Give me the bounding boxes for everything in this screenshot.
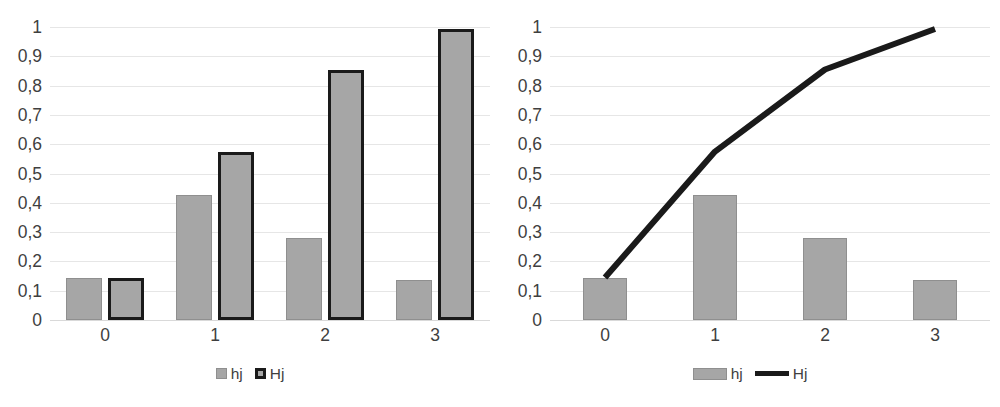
legend-label-hj: hj [231, 366, 243, 382]
chart-panel-right: 10,90,80,70,60,50,40,30,20,10 0123 hj Hj [500, 0, 1000, 407]
bar-Hj-3 [438, 29, 474, 320]
plot-area-right [550, 27, 990, 320]
y-axis-labels-right: 10,90,80,70,60,50,40,30,20,10 [500, 27, 546, 320]
y-tick-label: 0,6 [518, 134, 542, 155]
gridline [550, 320, 990, 321]
x-tick-label: 3 [430, 325, 440, 346]
x-tick-label: 2 [320, 325, 330, 346]
plot-wrapper-left: 10,90,80,70,60,50,40,30,20,10 0123 [0, 0, 500, 360]
y-tick-label: 0,5 [518, 163, 542, 184]
legend-right: hj Hj [500, 366, 1000, 382]
bar-hj-3 [396, 280, 432, 320]
x-tick-label: 2 [820, 325, 830, 346]
x-tick-label: 3 [930, 325, 940, 346]
legend-label-Hj: Hj [270, 366, 285, 382]
y-tick-label: 0,2 [518, 251, 542, 272]
x-tick-label: 1 [210, 325, 220, 346]
y-tick-label: 0 [532, 310, 542, 331]
bar-Hj-0 [108, 278, 144, 320]
legend-left: hj Hj [0, 366, 500, 382]
legend-swatch-square-outlined-icon [255, 368, 266, 379]
y-tick-label: 0,5 [18, 163, 42, 184]
y-tick-label: 0,4 [18, 192, 42, 213]
cumulative-line-right [550, 27, 990, 320]
y-tick-label: 0,2 [18, 251, 42, 272]
y-tick-label: 0,8 [18, 75, 42, 96]
y-tick-label: 0,6 [18, 134, 42, 155]
y-tick-label: 0,1 [518, 280, 542, 301]
legend-label-Hj: Hj [793, 366, 808, 382]
bar-hj-2 [286, 238, 322, 320]
x-tick-label: 0 [600, 325, 610, 346]
bar-hj-0 [66, 278, 102, 320]
bar-Hj-1 [218, 152, 254, 320]
y-tick-label: 0,9 [18, 46, 42, 67]
legend-label-hj: hj [731, 366, 743, 382]
y-tick-label: 1 [532, 17, 542, 38]
legend-swatch-line-icon [755, 371, 789, 376]
legend-entry-Hj-left[interactable]: Hj [255, 366, 285, 382]
line-Hj [605, 29, 935, 277]
legend-entry-Hj-right[interactable]: Hj [755, 366, 808, 382]
y-tick-label: 0,1 [18, 280, 42, 301]
x-axis-labels-left: 0123 [50, 325, 490, 351]
y-tick-label: 0,3 [18, 222, 42, 243]
legend-swatch-square-icon [216, 368, 227, 379]
plot-wrapper-right: 10,90,80,70,60,50,40,30,20,10 0123 [500, 0, 1000, 360]
y-tick-label: 0,7 [518, 104, 542, 125]
y-tick-label: 0,3 [518, 222, 542, 243]
bar-Hj-2 [328, 70, 364, 321]
bar-hj-1 [176, 195, 212, 320]
y-tick-label: 0,4 [518, 192, 542, 213]
legend-swatch-rect-icon [693, 368, 727, 380]
y-tick-label: 0,7 [18, 104, 42, 125]
x-tick-label: 0 [100, 325, 110, 346]
chart-panel-left: 10,90,80,70,60,50,40,30,20,10 0123 hj Hj [0, 0, 500, 407]
y-axis-labels-left: 10,90,80,70,60,50,40,30,20,10 [0, 27, 46, 320]
legend-entry-hj-right[interactable]: hj [693, 366, 743, 382]
y-tick-label: 0,9 [518, 46, 542, 67]
legend-entry-hj-left[interactable]: hj [216, 366, 243, 382]
x-tick-label: 1 [710, 325, 720, 346]
y-tick-label: 1 [32, 17, 42, 38]
bars-layer-left [50, 27, 490, 320]
y-tick-label: 0 [32, 310, 42, 331]
plot-area-left [50, 27, 490, 320]
chart-page: 10,90,80,70,60,50,40,30,20,10 0123 hj Hj… [0, 0, 1000, 407]
x-axis-labels-right: 0123 [550, 325, 990, 351]
y-tick-label: 0,8 [518, 75, 542, 96]
gridline [50, 320, 490, 321]
